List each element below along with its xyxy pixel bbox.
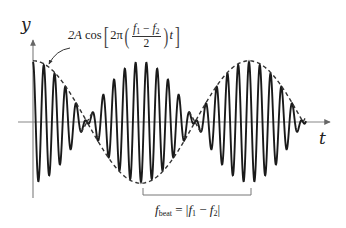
right-paren: ) — [163, 24, 168, 48]
left-paren: ( — [125, 24, 130, 48]
envelope-formula: 2A cos [ 2π ( f1 − f2 2 ) t ] — [68, 22, 182, 49]
right-bracket: ] — [175, 23, 180, 49]
fraction-numerator: f1 − f2 — [132, 22, 161, 37]
formula-prefix: 2A cos — [68, 28, 102, 43]
formula-fraction: f1 − f2 2 — [132, 22, 161, 49]
x-axis-label: t — [319, 128, 326, 148]
y-axis-label: y — [21, 14, 31, 34]
formula-suffix: t — [170, 28, 173, 43]
beat-period-bracket — [143, 188, 251, 195]
fraction-denominator: 2 — [143, 37, 149, 49]
envelope-pointer-arrow — [49, 48, 70, 64]
formula-inner-prefix: 2π — [110, 28, 123, 43]
left-bracket: [ — [103, 23, 108, 49]
beat-frequency-label: fbeat = |f1 − f2| — [155, 202, 220, 218]
